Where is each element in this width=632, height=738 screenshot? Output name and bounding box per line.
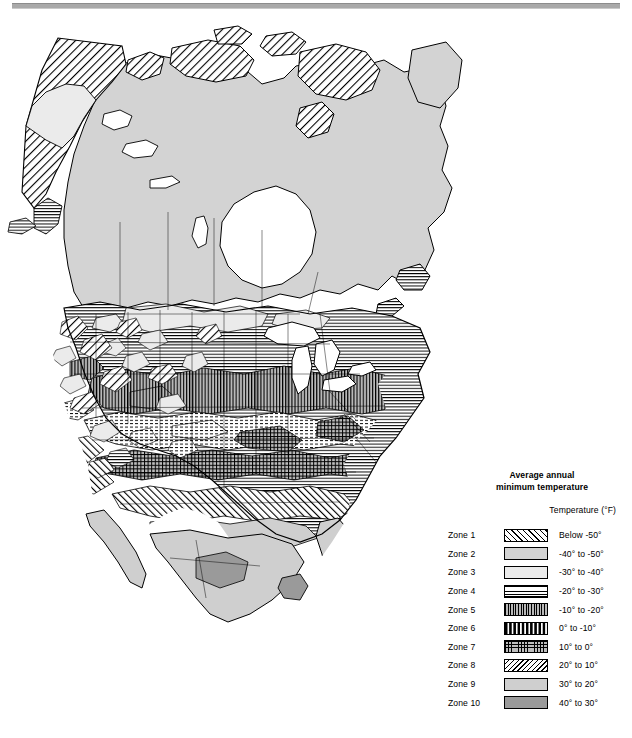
legend-title-line1: Average annual: [466, 470, 618, 482]
arctic-island-melville: [214, 26, 252, 44]
baja-peninsula: [86, 510, 146, 588]
legend-zone-label: Zone 5: [448, 605, 504, 615]
north-america-hardiness-map: [0, 22, 470, 682]
florida-zone9: [316, 518, 354, 598]
legend-zone-label: Zone 7: [448, 642, 504, 652]
legend-title: Average annual minimum temperature: [466, 470, 618, 493]
legend-zone-label: Zone 8: [448, 660, 504, 670]
legend-swatch-horizontal-lines: [504, 585, 548, 598]
legend-zone-label: Zone 3: [448, 567, 504, 577]
legend-temperature-label: -10° to -20°: [559, 605, 604, 615]
map-svg: [0, 22, 470, 682]
legend-temperature-label: 20° to 10°: [559, 660, 598, 670]
legend-row: Zone 4-20° to -30°: [448, 582, 632, 601]
legend-row: Zone 5-10° to -20°: [448, 600, 632, 619]
legend-row: Zone 3-30° to -40°: [448, 563, 632, 582]
legend-subtitle: Temperature (°F): [448, 505, 632, 515]
map-figure-page: Average annual minimum temperature Tempe…: [0, 0, 632, 738]
legend-title-line2: minimum temperature: [466, 482, 618, 494]
legend-zone-label: Zone 4: [448, 586, 504, 596]
legend-temperature-label: 0° to -10°: [559, 623, 596, 633]
map-legend: Average annual minimum temperature Tempe…: [448, 470, 632, 720]
greenland-edge: [408, 42, 462, 108]
legend-temperature-label: -40° to -50°: [559, 549, 604, 559]
legend-swatch-vertical-lines: [504, 603, 548, 616]
legend-swatch-solid-gray-dark: [504, 696, 548, 709]
legend-temperature-label: -30° to -40°: [559, 567, 604, 577]
conus-zone-bands: [52, 302, 430, 622]
legend-row: Zone 710° to 0°: [448, 638, 632, 657]
yucatan: [278, 574, 308, 600]
legend-swatch-diagonal-hatch-right: [504, 529, 548, 542]
legend-swatch-dashed-horizontal: [504, 622, 548, 635]
socal-coast-zone10: [60, 490, 84, 512]
legend-swatch-diagonal-hatch-left: [504, 659, 548, 672]
legend-swatch-grid-crosshatch: [504, 640, 548, 653]
page-header-rule: [12, 3, 620, 9]
aleutian-chain: [8, 218, 36, 234]
legend-row: Zone 2-40° to -50°: [448, 545, 632, 564]
legend-swatch-solid-gray: [504, 678, 548, 691]
arctic-island-ellesmere: [260, 32, 306, 56]
legend-row: Zone 930° to 20°: [448, 675, 632, 694]
legend-zone-label: Zone 9: [448, 679, 504, 689]
legend-temperature-label: -20° to -30°: [559, 586, 604, 596]
legend-swatch-solid-gray-medium: [504, 547, 548, 560]
legend-temperature-label: 40° to 30°: [559, 698, 598, 708]
legend-row: Zone 1Below -50°: [448, 526, 632, 545]
legend-row: Zone 1040° to 30°: [448, 693, 632, 712]
south-florida-zone10: [330, 566, 350, 598]
legend-row-list: Zone 1Below -50°Zone 2-40° to -50°Zone 3…: [448, 526, 632, 712]
legend-zone-label: Zone 10: [448, 698, 504, 708]
legend-zone-label: Zone 2: [448, 549, 504, 559]
legend-zone-label: Zone 1: [448, 530, 504, 540]
legend-temperature-label: 30° to 20°: [559, 679, 598, 689]
legend-zone-label: Zone 6: [448, 623, 504, 633]
legend-temperature-label: 10° to 0°: [559, 642, 593, 652]
legend-row: Zone 60° to -10°: [448, 619, 632, 638]
legend-swatch-solid-gray-light: [504, 566, 548, 579]
legend-row: Zone 820° to 10°: [448, 656, 632, 675]
canada-landmass: [64, 26, 462, 316]
legend-temperature-label: Below -50°: [559, 530, 602, 540]
